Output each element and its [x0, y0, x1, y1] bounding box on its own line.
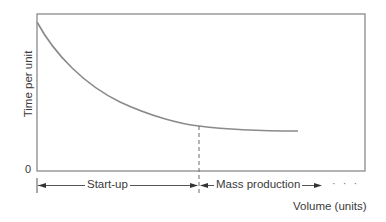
startup-phase-label: Start-up — [85, 178, 130, 190]
mass-production-phase-label: Mass production — [214, 178, 302, 190]
chart-plot — [0, 0, 386, 222]
continuation-ellipsis: · · · — [332, 177, 359, 189]
arrow-left-icon — [200, 183, 208, 188]
plot-frame — [37, 14, 365, 171]
learning-curve-chart: Time per unit 0 Start-up Mass production… — [0, 0, 386, 222]
arrow-right-icon — [190, 183, 198, 188]
arrow-left-icon — [38, 183, 46, 188]
y-axis-label: Time per unit — [22, 51, 34, 118]
y-axis-zero-tick: 0 — [25, 163, 31, 175]
x-axis-label: Volume (units) — [293, 200, 367, 212]
learning-curve-line — [37, 22, 298, 131]
arrow-right-icon — [314, 183, 322, 188]
